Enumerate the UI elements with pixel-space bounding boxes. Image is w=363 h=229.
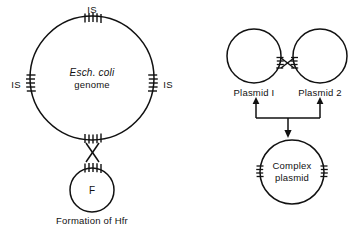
is-label-top: IS (87, 5, 97, 15)
plasmid-2-circle (293, 29, 347, 83)
merge-brace-arrows (253, 97, 324, 138)
diagram-svg (0, 0, 363, 229)
is-label-right: IS (163, 80, 173, 90)
plasmid-1-label: Plasmid I (234, 88, 275, 98)
figure-root: IS IS IS Esch. coli genome F Formation o… (0, 0, 363, 229)
crossover-genome-f (86, 143, 99, 162)
is-label-left: IS (11, 80, 21, 90)
is-element-genome-bottom (85, 134, 101, 144)
ecoli-genome-label-genome: genome (74, 80, 110, 90)
plasmid-1-circle (227, 29, 281, 83)
formation-of-hfr-caption: Formation of Hfr (56, 216, 128, 226)
plasmid-2-label: Plasmid 2 (298, 88, 342, 98)
arrow-down-head (284, 130, 291, 138)
left-panel-group (26, 13, 158, 212)
crossover-plasmids (281, 58, 294, 68)
f-plasmid-label: F (89, 185, 95, 196)
complex-plasmid-label-line1: Complex (273, 161, 312, 171)
ecoli-genome-label-species: Esch. coli (70, 67, 115, 78)
complex-plasmid-label-line2: plasmid (275, 173, 309, 183)
